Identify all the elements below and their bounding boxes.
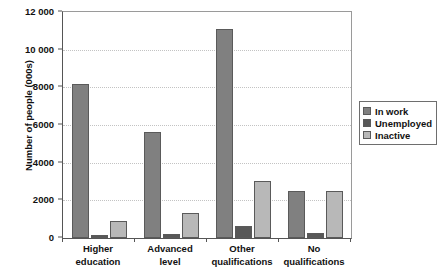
bar <box>254 181 271 238</box>
chart-legend: In workUnemployedInactive <box>359 101 437 145</box>
x-axis-tick-mark <box>134 238 135 242</box>
legend-item-label: In work <box>375 106 408 117</box>
y-axis-tick-label: 12 000 <box>25 6 54 17</box>
legend-item[interactable]: Inactive <box>363 129 432 141</box>
x-axis-tick-mark <box>62 238 63 242</box>
legend-item-label: Unemployed <box>375 118 432 129</box>
bar-group <box>63 12 135 238</box>
bar <box>235 226 252 238</box>
plot-area <box>62 11 352 239</box>
y-axis-tick-label: 8000 <box>33 81 54 92</box>
bar-series-container <box>63 12 351 238</box>
bar-group <box>135 12 207 238</box>
legend-item[interactable]: Unemployed <box>363 117 432 129</box>
y-axis-tick-label: 0 <box>49 232 54 243</box>
bar <box>144 132 161 238</box>
bar <box>110 221 127 239</box>
y-axis-tick-label: 2000 <box>33 194 54 205</box>
x-axis-category-label-line: qualifications <box>272 256 356 269</box>
bar <box>216 29 233 238</box>
x-axis-tick-mark <box>206 238 207 242</box>
x-axis-tick-mark <box>278 238 279 242</box>
y-axis-tick-label: 6000 <box>33 119 54 130</box>
x-axis-category-label: Noqualifications <box>272 243 356 268</box>
legend-item[interactable]: In work <box>363 105 432 117</box>
bar <box>182 213 199 238</box>
legend-swatch-icon <box>363 119 371 127</box>
bar-group <box>279 12 351 238</box>
legend-swatch-icon <box>363 107 371 115</box>
bar-chart-figure: Number of people (000s) 12 00010 0008000… <box>0 0 443 273</box>
y-axis-tick-label: 10 000 <box>25 43 54 54</box>
legend-item-label: Inactive <box>375 130 410 141</box>
bar <box>326 191 343 238</box>
bar <box>288 191 305 238</box>
legend-swatch-icon <box>363 131 371 139</box>
bar-group <box>207 12 279 238</box>
y-axis-tick-label: 4000 <box>33 156 54 167</box>
x-axis-tick-mark <box>350 238 351 242</box>
y-axis-tick-labels: 12 00010 00080006000400020000 <box>14 11 58 237</box>
x-axis-tick-labels: HighereducationAdvancedlevelOtherqualifi… <box>62 243 352 273</box>
bar <box>72 84 89 238</box>
x-axis-category-label-line: No <box>272 243 356 256</box>
